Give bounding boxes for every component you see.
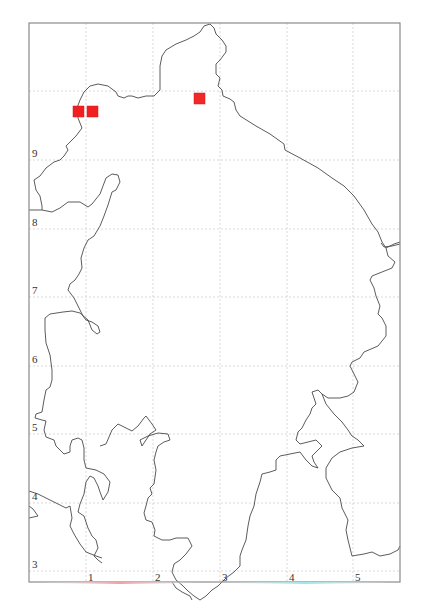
map-figure: 9 8 7 6 5 4 3 1 2 3 4 5 (0, 0, 423, 608)
coastline-southeast (222, 242, 400, 582)
marker-3[interactable] (194, 93, 205, 104)
y-tick-label: 6 (32, 353, 38, 365)
coastline-southwest-2 (29, 506, 38, 518)
x-tick-label: 1 (88, 571, 94, 583)
x-tick-label: 3 (222, 571, 228, 583)
x-tick-label: 4 (289, 571, 295, 583)
y-tick-label: 8 (32, 216, 38, 228)
x-axis: 1 2 3 4 5 (88, 571, 361, 583)
y-tick-label: 9 (32, 147, 38, 159)
bottom-red-bar (40, 582, 200, 584)
marker-2[interactable] (87, 106, 98, 117)
y-tick-label: 7 (32, 284, 38, 296)
markers (73, 93, 205, 117)
coastline-southeast-2 (322, 394, 400, 556)
y-tick-label: 3 (32, 558, 38, 570)
bottom-cyan-bar (220, 582, 390, 584)
grid (29, 23, 400, 582)
coastline (29, 24, 400, 600)
x-tick-label: 2 (155, 571, 161, 583)
coastline-bay (100, 416, 222, 600)
coastline-southwest-1 (29, 491, 102, 558)
marker-1[interactable] (73, 106, 84, 117)
x-tick-label: 5 (355, 571, 361, 583)
y-tick-label: 5 (32, 421, 38, 433)
coastline-main (29, 174, 120, 563)
plot-frame (29, 23, 400, 582)
y-tick-label: 4 (32, 490, 38, 502)
coastline-northeast (34, 24, 386, 248)
